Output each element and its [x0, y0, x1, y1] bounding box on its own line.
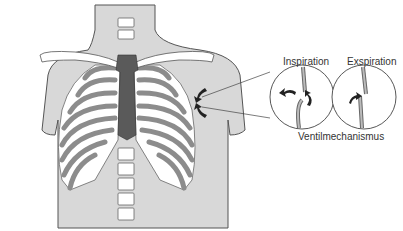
exspiration-inset: [332, 65, 396, 129]
label-exspiration: Exspiration: [347, 56, 396, 67]
sternum: [116, 55, 138, 140]
chest-diagram: [0, 0, 403, 231]
label-inspiration: Inspiration: [283, 56, 329, 67]
label-ventilmechanismus: Ventilmechanismus: [298, 131, 384, 142]
inspiration-inset: [270, 65, 334, 129]
